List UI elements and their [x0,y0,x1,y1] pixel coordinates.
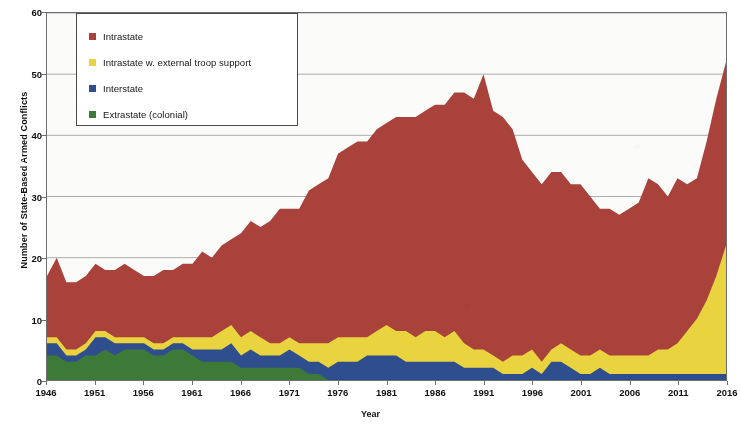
x-axis-tick-label: 1961 [181,387,202,398]
x-axis-tick-label: 1966 [230,387,251,398]
x-axis-tick-mark [192,381,193,385]
legend-swatch-intrastate-external [89,59,96,66]
x-axis-ticks: 1946195119561961196619711976198119861991… [46,381,727,403]
y-axis-tick-label: 0 [2,376,42,387]
legend-item-label: Extrastate (colonial) [103,109,188,120]
x-axis-tick-mark [387,381,388,385]
x-axis-tick-label: 1991 [473,387,494,398]
x-axis-tick-label: 2011 [668,387,689,398]
y-axis-ticks: 0102030405060 [0,12,42,381]
y-axis-tick-label: 10 [2,314,42,325]
legend-item-label: Intrastate w. external troop support [103,57,251,68]
legend-item: Intrastate w. external troop support [77,49,297,75]
x-axis-tick-label: 1971 [279,387,300,398]
chart-legend: IntrastateIntrastate w. external troop s… [76,13,298,126]
x-axis-tick-mark [241,381,242,385]
x-axis-tick-label: 1951 [84,387,105,398]
y-axis-tick-label: 30 [2,191,42,202]
x-axis-tick-mark [678,381,679,385]
x-axis-tick-mark [289,381,290,385]
legend-item-label: Interstate [103,83,143,94]
x-axis-tick-label: 1981 [376,387,397,398]
x-axis-tick-label: 1976 [327,387,348,398]
legend-item-label: Intrastate [103,31,143,42]
x-axis-tick-label: 1996 [522,387,543,398]
legend-item: Extrastate (colonial) [77,101,297,127]
x-axis-tick-label: 2016 [716,387,737,398]
x-axis-tick-label: 2006 [619,387,640,398]
x-axis-tick-mark [581,381,582,385]
y-axis-tick-label: 40 [2,130,42,141]
x-axis-tick-label: 1946 [35,387,56,398]
y-axis-tick-label: 20 [2,253,42,264]
x-axis-tick-mark [143,381,144,385]
x-axis-tick-mark [95,381,96,385]
y-axis-tick-label: 60 [2,7,42,18]
x-axis-tick-label: 1986 [425,387,446,398]
legend-item: Intrastate [77,23,297,49]
x-axis-tick-mark [532,381,533,385]
x-axis-tick-mark [484,381,485,385]
legend-swatch-interstate [89,85,96,92]
x-axis-tick-mark [435,381,436,385]
legend-swatch-extrastate [89,111,96,118]
x-axis-title: Year [0,409,741,419]
x-axis-tick-label: 2001 [570,387,591,398]
x-axis-tick-mark [630,381,631,385]
stacked-area-chart: Number of State-Based Armed Conflicts 01… [0,0,741,431]
legend-item: Interstate [77,75,297,101]
y-axis-tick-label: 50 [2,68,42,79]
legend-swatch-intrastate [89,33,96,40]
x-axis-tick-mark [338,381,339,385]
x-axis-tick-mark [727,381,728,385]
x-axis-tick-mark [46,381,47,385]
x-axis-tick-label: 1956 [133,387,154,398]
